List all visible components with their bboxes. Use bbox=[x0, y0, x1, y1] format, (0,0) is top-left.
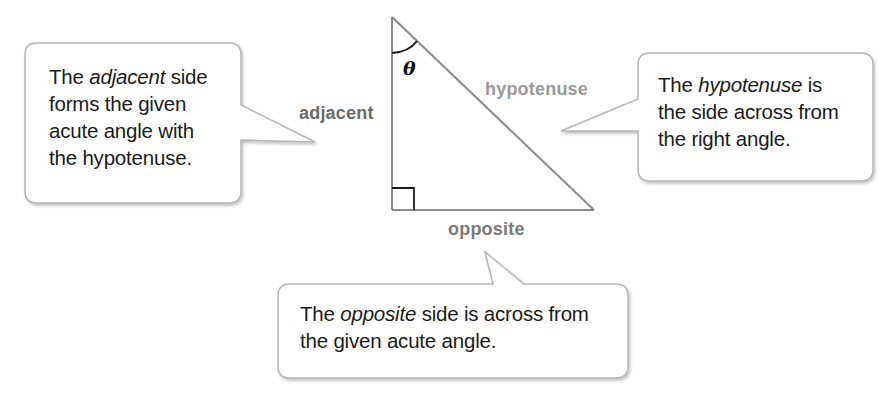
opposite-callout-text: The opposite side is across from the giv… bbox=[300, 300, 589, 354]
angle-arc bbox=[392, 41, 417, 53]
term-adjacent: adjacent bbox=[89, 65, 165, 88]
text: side is across from bbox=[416, 302, 589, 325]
hypotenuse-label: hypotenuse bbox=[485, 79, 588, 100]
term-hypotenuse: hypotenuse bbox=[698, 73, 802, 96]
text-line: the given acute angle. bbox=[300, 327, 589, 354]
text: side bbox=[165, 65, 207, 88]
text: The bbox=[49, 65, 89, 88]
right-angle-marker bbox=[392, 188, 414, 210]
adjacent-callout-text: The adjacent side forms the given acute … bbox=[49, 63, 207, 171]
text-line: forms the given bbox=[49, 90, 207, 117]
term-opposite: opposite bbox=[340, 302, 416, 325]
text-line: the side across from bbox=[658, 98, 839, 125]
text: The bbox=[658, 73, 698, 96]
text: is bbox=[802, 73, 822, 96]
text-line: acute angle with bbox=[49, 117, 207, 144]
text-line: the hypotenuse. bbox=[49, 144, 207, 171]
theta-symbol: θ bbox=[403, 57, 416, 79]
hypotenuse-side bbox=[392, 17, 594, 210]
text: The bbox=[300, 302, 340, 325]
adjacent-label: adjacent bbox=[299, 103, 374, 124]
opposite-label: opposite bbox=[448, 219, 525, 240]
right-triangle bbox=[392, 17, 594, 210]
hypotenuse-callout-text: The hypotenuse is the side across from t… bbox=[658, 71, 839, 152]
text-line: the right angle. bbox=[658, 125, 839, 152]
